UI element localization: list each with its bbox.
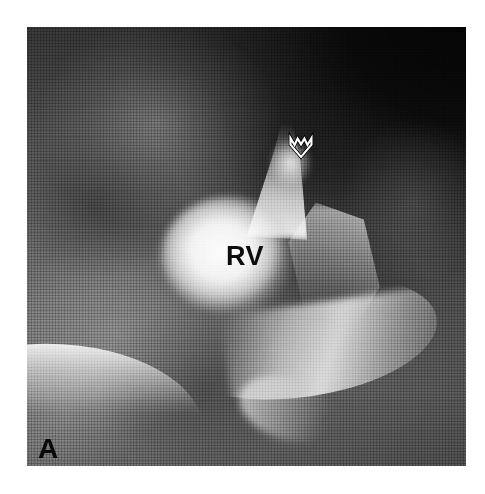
rv-chamber-label: RV [226,243,264,270]
open-down-arrow-icon [286,131,316,161]
radiograph-image: RV A [27,27,466,466]
panel-label: A [38,435,58,463]
figure-container: RV A [0,0,485,494]
